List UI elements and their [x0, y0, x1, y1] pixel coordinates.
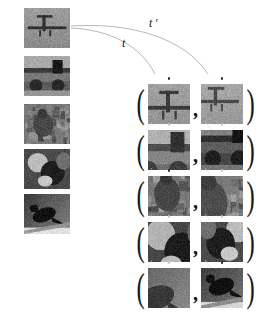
transform-arrow-t	[71, 28, 155, 74]
open-paren: (	[136, 84, 144, 124]
figure-root: ( , ) ( , ) (	[0, 0, 263, 315]
anchor-dot-icon	[221, 169, 224, 172]
augmented-patch-left	[148, 268, 190, 308]
anchor-dot-icon	[168, 123, 171, 126]
open-paren: (	[136, 176, 144, 216]
augmented-patch-right	[201, 176, 243, 216]
source-image-airplane	[24, 8, 70, 48]
pair-row: ( , )	[128, 128, 263, 172]
augmented-patch-right	[201, 268, 243, 308]
anchor-dot-icon	[168, 77, 171, 80]
augmented-patch-left	[148, 84, 190, 124]
open-paren: (	[136, 130, 144, 170]
pair-separator: ,	[190, 283, 201, 303]
pair-row: ( , )	[128, 82, 263, 126]
close-paren: )	[246, 268, 254, 308]
anchor-dot-icon	[221, 215, 224, 218]
augmented-patch-left	[148, 176, 190, 216]
close-paren: )	[246, 130, 254, 170]
pair-row: ( , )	[128, 174, 263, 218]
close-paren: )	[246, 222, 254, 262]
anchor-dot-icon	[168, 215, 171, 218]
anchor-dot-icon	[221, 123, 224, 126]
close-paren: )	[246, 176, 254, 216]
transform-arrow-t-prime	[71, 25, 208, 74]
pair-separator: ,	[190, 99, 201, 119]
augmented-patch-right	[201, 84, 243, 124]
pair-row: ( , )	[128, 266, 263, 310]
anchor-dot-icon	[168, 261, 171, 264]
transform-label-t: t	[122, 37, 125, 49]
pair-separator: ,	[190, 145, 201, 165]
augmented-patch-left	[148, 130, 190, 170]
augmented-patch-right	[201, 222, 243, 262]
source-image-vintage-car	[24, 56, 70, 96]
source-image-bird	[24, 194, 70, 234]
anchor-dot-icon	[168, 169, 171, 172]
source-image-deer	[24, 104, 70, 144]
source-image-animals	[24, 149, 70, 189]
anchor-dot-icon	[221, 77, 224, 80]
pair-row: ( , )	[128, 220, 263, 264]
anchor-dot-icon	[221, 261, 224, 264]
open-paren: (	[136, 222, 144, 262]
transform-label-t-prime: t ′	[149, 17, 157, 29]
open-paren: (	[136, 268, 144, 308]
close-paren: )	[246, 84, 254, 124]
augmented-patch-left	[148, 222, 190, 262]
augmented-patch-right	[201, 130, 243, 170]
pair-separator: ,	[190, 237, 201, 257]
pair-separator: ,	[190, 191, 201, 211]
